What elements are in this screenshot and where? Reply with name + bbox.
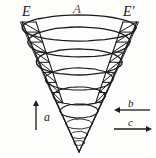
vector-head-b [114,107,120,113]
vector-head-a [33,100,39,106]
label-apex-axis: A [73,2,81,15]
label-vector-a: a [44,111,50,123]
cone-ring-6 [66,119,92,129]
cone-ring-5 [60,104,98,118]
cone-diagram [0,0,156,158]
label-vector-b: b [128,98,134,109]
label-right-edge: E' [123,5,135,19]
figure-canvas: E E' A a b c [0,0,156,158]
cone-ring-0 [22,15,136,41]
vector-head-c [146,126,152,132]
cone-ring-7 [71,131,87,138]
label-left-edge: E [22,5,31,19]
label-vector-c: c [128,117,133,128]
